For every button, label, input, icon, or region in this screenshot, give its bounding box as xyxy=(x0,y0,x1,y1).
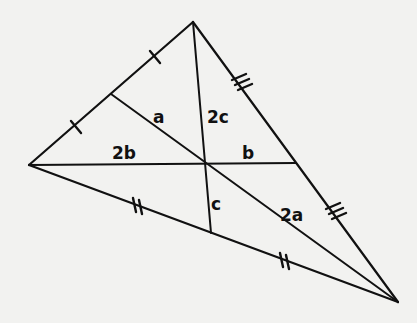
label-b: b xyxy=(242,143,254,163)
side-left-right xyxy=(29,165,398,302)
median-from-top xyxy=(193,22,211,233)
label-a: a xyxy=(153,107,164,127)
median-from-left xyxy=(29,163,296,165)
side-top-right xyxy=(193,22,398,302)
label-2c: 2c xyxy=(207,107,229,127)
label-c: c xyxy=(211,194,221,214)
triangle-medians-diagram: a 2a 2b b 2c c xyxy=(0,0,417,323)
label-2a: 2a xyxy=(280,205,303,225)
label-2b: 2b xyxy=(112,143,136,163)
